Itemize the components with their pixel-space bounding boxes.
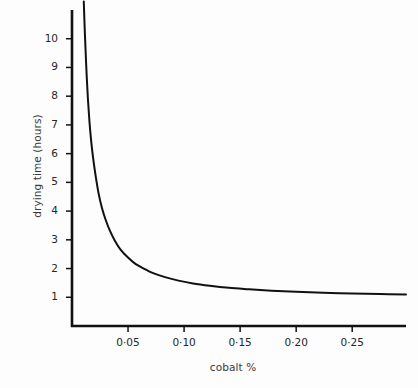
y-tick-label: 5: [32, 176, 58, 187]
x-tick-label: 0·20: [273, 337, 319, 348]
y-tick-label: 2: [32, 263, 58, 274]
plot-area: [0, 0, 418, 388]
tick-marks: [66, 39, 352, 332]
axis-spine: [72, 10, 406, 326]
x-tick-label: 0·05: [105, 337, 151, 348]
series-line: [84, 1, 406, 294]
y-tick-label: 8: [32, 90, 58, 101]
axes: [72, 10, 406, 326]
y-tick-label: 7: [32, 119, 58, 130]
data-curve: [84, 1, 406, 294]
y-tick-label: 4: [32, 205, 58, 216]
y-tick-label: 9: [32, 61, 58, 72]
y-tick-label: 10: [32, 33, 58, 44]
y-tick-label: 6: [32, 148, 58, 159]
x-tick-label: 0·25: [329, 337, 375, 348]
x-tick-label: 0·10: [161, 337, 207, 348]
x-tick-label: 0·15: [217, 337, 263, 348]
chart-figure: drying time (hours) cobalt % 12345678910…: [0, 0, 418, 388]
y-tick-label: 1: [32, 291, 58, 302]
y-tick-label: 3: [32, 234, 58, 245]
